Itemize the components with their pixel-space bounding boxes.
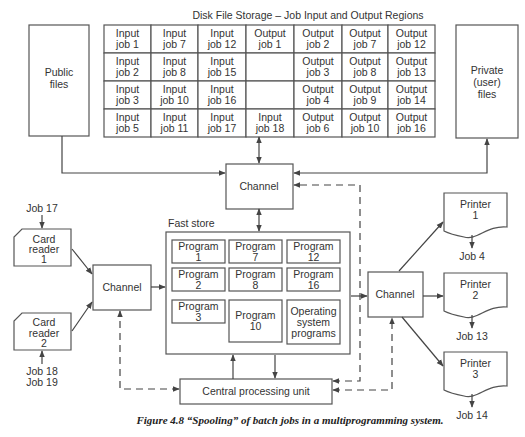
svg-text:10: 10	[250, 320, 262, 332]
svg-text:2: 2	[196, 279, 202, 291]
disk-cell: Inputjob 5	[104, 109, 151, 137]
disk-storage-title: Disk File Storage – Job Input and Output…	[192, 9, 423, 21]
disk-cell: Inputjob 15	[198, 53, 246, 81]
card-reader-2: Card reader 2	[14, 313, 71, 350]
card-reader-1: Card reader 1	[14, 229, 71, 266]
svg-text:job 12: job 12	[396, 38, 426, 50]
card-reader-1-job: Job 17	[26, 202, 58, 214]
disk-cell: Inputjob 1	[104, 25, 151, 53]
svg-text:job 13: job 13	[396, 66, 426, 78]
input-channel: Channel	[93, 265, 151, 310]
svg-text:job 3: job 3	[115, 94, 139, 106]
disk-cell: Outputjob 2	[294, 25, 342, 53]
disk-cell: Inputjob 3	[104, 81, 151, 109]
disk-cell: Outputjob 4	[294, 81, 342, 109]
svg-text:job 16: job 16	[207, 94, 237, 106]
svg-text:job 12: job 12	[207, 38, 237, 50]
disk-cell: Inputjob 10	[151, 81, 198, 109]
svg-text:job 7: job 7	[162, 38, 186, 50]
disk-cell: Outputjob 16	[388, 109, 435, 137]
printer-job: Job 14	[456, 409, 488, 421]
svg-text:job 8: job 8	[162, 66, 186, 78]
svg-text:job 18: job 18	[255, 122, 285, 134]
disk-cell: Inputjob 12	[198, 25, 246, 53]
disk-cell: Inputjob 2	[104, 53, 151, 81]
disk-channel: Channel	[226, 164, 293, 209]
disk-cell	[246, 53, 294, 81]
svg-text:Channel: Channel	[102, 281, 141, 293]
svg-text:Private: Private	[471, 64, 504, 76]
program-box: Program1	[172, 240, 225, 264]
svg-text:12: 12	[308, 251, 320, 263]
svg-text:3: 3	[473, 368, 479, 380]
disk-cell: Outputjob 9	[342, 81, 388, 109]
disk-cell: Inputjob 11	[151, 109, 198, 137]
svg-text:1: 1	[473, 209, 479, 221]
program-box: Program8	[229, 268, 282, 292]
svg-text:16: 16	[308, 279, 320, 291]
program-box: Program10	[229, 300, 282, 342]
printer-2: Printer2Job 13	[444, 273, 507, 342]
public-files: Public files	[29, 25, 89, 136]
disk-cell	[246, 81, 294, 109]
svg-text:job 6: job 6	[306, 122, 330, 134]
svg-text:programs: programs	[291, 327, 335, 339]
disk-cell: Inputjob 16	[198, 81, 246, 109]
svg-text:1: 1	[196, 251, 202, 263]
printer-job: Job 13	[456, 330, 488, 342]
svg-text:job 15: job 15	[207, 66, 237, 78]
svg-text:job 2: job 2	[306, 38, 330, 50]
svg-text:(user): (user)	[473, 76, 500, 88]
svg-text:job 10: job 10	[350, 122, 380, 134]
svg-text:2: 2	[473, 289, 479, 301]
svg-text:2: 2	[41, 337, 47, 349]
svg-text:files: files	[50, 78, 69, 90]
public-files-to-channel-line	[62, 136, 225, 173]
svg-text:7: 7	[253, 251, 259, 263]
disk-cell: Inputjob 8	[151, 53, 198, 81]
spooling-diagram: Disk File Storage – Job Input and Output…	[0, 0, 525, 437]
disk-cell: Outputjob 6	[294, 109, 342, 137]
program-box: Program3	[172, 300, 225, 324]
disk-cell: Inputjob 17	[198, 109, 246, 137]
figure-caption: Figure 4.8 “Spooling” of batch jobs in a…	[135, 414, 443, 426]
svg-text:job 7: job 7	[353, 38, 377, 50]
svg-text:3: 3	[196, 311, 202, 323]
disk-cell: Outputjob 10	[342, 109, 388, 137]
svg-text:job 10: job 10	[159, 94, 189, 106]
fast-store-label: Fast store	[168, 217, 215, 229]
svg-text:job 1: job 1	[258, 38, 282, 50]
disk-cell: Outputjob 7	[342, 25, 388, 53]
svg-text:files: files	[478, 88, 497, 100]
svg-text:job 16: job 16	[396, 122, 426, 134]
svg-text:job 4: job 4	[306, 94, 330, 106]
svg-text:job 14: job 14	[396, 94, 426, 106]
disk-cell: Inputjob 7	[151, 25, 198, 53]
svg-text:Channel: Channel	[375, 288, 414, 300]
printer-job: Job 4	[459, 250, 485, 262]
svg-text:job 11: job 11	[160, 122, 189, 134]
printer-1: Printer1Job 4	[444, 193, 507, 262]
program-box: Program2	[172, 268, 225, 292]
printer-3: Printer3Job 14	[444, 352, 507, 421]
svg-text:job 9: job 9	[353, 94, 377, 106]
output-channel: Channel	[368, 272, 423, 317]
svg-text:job 8: job 8	[353, 66, 377, 78]
program-box: Program16	[287, 268, 340, 292]
card-reader-2-job-b: Job 19	[26, 376, 58, 388]
disk-cell: Outputjob 8	[342, 53, 388, 81]
disk-cell: Inputjob 18	[246, 109, 294, 137]
private-files: Private (user) files	[456, 25, 518, 138]
disk-cell: Outputjob 13	[388, 53, 435, 81]
disk-cell: Outputjob 12	[388, 25, 435, 53]
svg-text:Central processing unit: Central processing unit	[202, 385, 309, 397]
svg-text:8: 8	[253, 279, 259, 291]
disk-cell: Outputjob 1	[246, 25, 294, 53]
svg-text:job 5: job 5	[115, 122, 139, 134]
svg-text:job 3: job 3	[306, 66, 330, 78]
disk-storage-grid: Inputjob 1Inputjob 7Inputjob 12Outputjob…	[104, 25, 435, 137]
svg-text:job 1: job 1	[115, 38, 139, 50]
disk-cell: Outputjob 14	[388, 81, 435, 109]
printers: Printer1Job 4Printer2Job 13Printer3Job 1…	[444, 193, 507, 421]
svg-text:1: 1	[41, 253, 47, 265]
